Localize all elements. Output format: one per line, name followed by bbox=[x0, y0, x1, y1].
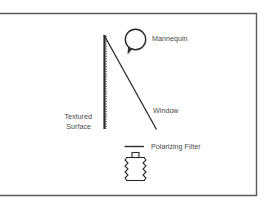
label-window: Window bbox=[153, 106, 179, 115]
label-polarizing-filter: Polarizing Filter bbox=[151, 142, 201, 151]
camera-icon bbox=[125, 153, 146, 181]
diagram-frame bbox=[0, 14, 257, 196]
label-textured-surface-line2: Surface bbox=[66, 122, 91, 131]
label-textured-surface-line1: Textured bbox=[64, 112, 92, 121]
textured-surface bbox=[105, 35, 107, 129]
label-mannequin: Mannequin bbox=[152, 34, 188, 43]
reflection-diagram: Mannequin Textured Surface Window Polari… bbox=[0, 0, 265, 202]
mannequin-icon bbox=[125, 29, 145, 53]
